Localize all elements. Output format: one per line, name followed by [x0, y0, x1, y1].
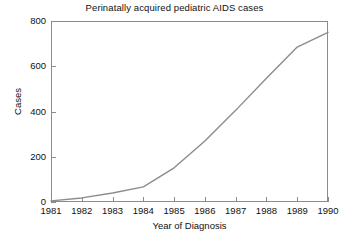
x-tick-mark — [174, 197, 175, 202]
x-tick-label: 1989 — [280, 205, 314, 216]
chart-screenshot: Perinatally acquired pediatric AIDS case… — [0, 0, 349, 240]
y-tick-label: 400 — [18, 107, 46, 117]
x-tick-mark — [205, 197, 206, 202]
x-tick-label: 1990 — [311, 205, 345, 216]
x-tick-mark — [328, 197, 329, 202]
y-tick-label: 800 — [18, 16, 46, 26]
y-tick-mark — [51, 66, 56, 67]
x-tick-label: 1986 — [188, 205, 222, 216]
x-axis-title: Year of Diagnosis — [51, 220, 328, 231]
x-tick-label: 1987 — [219, 205, 253, 216]
y-tick-label: 600 — [18, 61, 46, 71]
x-tick-mark — [143, 197, 144, 202]
y-tick-mark — [51, 21, 56, 22]
x-tick-label: 1983 — [96, 205, 130, 216]
x-tick-mark — [113, 197, 114, 202]
x-tick-label: 1985 — [157, 205, 191, 216]
x-tick-label: 1981 — [34, 205, 68, 216]
chart-title: Perinatally acquired pediatric AIDS case… — [0, 2, 349, 13]
x-tick-label: 1982 — [65, 205, 99, 216]
x-tick-mark — [51, 197, 52, 202]
line-series-plot — [51, 21, 328, 202]
x-tick-mark — [82, 197, 83, 202]
x-tick-label: 1988 — [249, 205, 283, 216]
y-tick-mark — [51, 202, 56, 203]
x-tick-mark — [236, 197, 237, 202]
x-tick-mark — [266, 197, 267, 202]
y-tick-mark — [51, 157, 56, 158]
x-tick-mark — [297, 197, 298, 202]
series-line-path — [51, 32, 328, 201]
y-tick-mark — [51, 112, 56, 113]
y-axis-tick-labels: 0200400600800 — [14, 0, 46, 240]
y-tick-label: 200 — [18, 152, 46, 162]
x-tick-label: 1984 — [126, 205, 160, 216]
